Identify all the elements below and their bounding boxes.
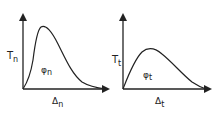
area-label-tangential: φt [143,70,152,82]
area-label-normal: φn [41,65,52,77]
x-label-tangential: Δt [155,96,164,109]
panel-normal: Tn φn Δn [6,15,108,109]
y-label-normal: Tn [6,50,18,64]
y-label-tangential: Tt [111,54,121,68]
curve-tangential [123,49,206,89]
x-label-normal: Δn [52,96,63,109]
diagram-canvas: Tn φn Δn Tt φt Δt [0,0,222,129]
curve-normal [23,26,106,89]
panel-tangential: Tt φt Δt [111,15,210,109]
